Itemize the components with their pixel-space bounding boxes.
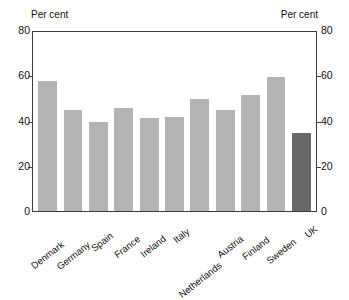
bar-france [114, 108, 133, 211]
left-axis-tick-label: 40 [0, 115, 30, 127]
bar-denmark [38, 81, 57, 211]
plot-area [32, 31, 317, 212]
bar-slot [213, 32, 238, 211]
left-axis-tick-label: 80 [0, 24, 30, 36]
right-axis-tick-label: 60 [321, 69, 349, 81]
category-label-france: France [112, 233, 142, 260]
bar-uk [292, 133, 311, 211]
bar-spain [89, 122, 108, 212]
bar-slot [111, 32, 136, 211]
bar-finland [241, 95, 260, 211]
left-axis-tick-label: 60 [0, 69, 30, 81]
bar-slot [238, 32, 263, 211]
bar-italy [165, 117, 184, 211]
right-axis-caption: Per cent [281, 9, 318, 20]
chart-title [0, 0, 349, 2]
bar-slot [187, 32, 212, 211]
bar-netherlands [190, 99, 209, 211]
bar-series [33, 32, 316, 211]
left-axis-caption: Per cent [31, 9, 68, 20]
category-label-austria: Austria [215, 233, 245, 260]
left-axis-tick-label: 20 [0, 160, 30, 172]
bar-slot [136, 32, 161, 211]
bar-slot [35, 32, 60, 211]
bar-sweden [267, 77, 286, 211]
bar-ireland [140, 118, 159, 211]
category-label-netherlands: Netherlands [177, 260, 224, 300]
bar-slot [263, 32, 288, 211]
right-axis-tick-label: 0 [321, 205, 349, 217]
category-axis-labels: DenmarkGermanySpainFranceIrelandItalyNet… [32, 212, 317, 271]
bar-germany [64, 110, 83, 211]
bar-austria [216, 110, 235, 211]
bar-slot [289, 32, 314, 211]
right-axis-tick-mark [317, 76, 321, 77]
category-label-ireland: Ireland [138, 233, 168, 260]
category-label-uk: UK [302, 223, 319, 240]
right-axis-tick-label: 20 [321, 160, 349, 172]
bar-slot [60, 32, 85, 211]
right-axis-tick-mark [317, 167, 321, 168]
bar-slot [86, 32, 111, 211]
right-axis-tick-label: 80 [321, 24, 349, 36]
category-label-spain: Spain [89, 230, 115, 254]
right-axis-tick-label: 40 [321, 115, 349, 127]
category-label-italy: Italy [170, 226, 191, 245]
right-axis-tick-mark [317, 122, 321, 123]
left-axis-tick-label: 0 [0, 205, 30, 217]
bar-slot [162, 32, 187, 211]
